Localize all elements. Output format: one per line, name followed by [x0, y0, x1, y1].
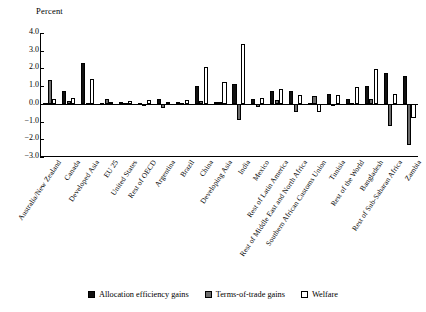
- bar-group: [251, 33, 264, 157]
- bar-group: [195, 33, 208, 157]
- legend-label: Welfare: [312, 290, 338, 299]
- x-tick-label-text: India: [236, 158, 252, 176]
- chart-legend: Allocation efficiency gainsTerms-of-trad…: [0, 290, 426, 299]
- x-tick-label-text: China: [197, 158, 215, 178]
- legend-swatch-icon: [205, 291, 212, 298]
- bar-2: [71, 98, 75, 104]
- legend-label: Terms-of-trade gains: [216, 290, 285, 299]
- x-tick-label-text: Brazil: [178, 158, 196, 179]
- y-axis-title: Percent: [36, 6, 63, 16]
- bar-group: [81, 33, 94, 157]
- bar-0: [289, 91, 293, 104]
- chart-figure: Percent 4.03.02.01.00.0−1.0−2.0−3.0 Aust…: [0, 0, 426, 312]
- bar-1: [294, 104, 298, 112]
- legend-item[interactable]: Welfare: [301, 290, 338, 299]
- x-tick-label-text: EU 25: [102, 158, 120, 179]
- bar-2: [393, 94, 397, 104]
- x-axis-labels: Australia/New ZealandCanadaDeveloped Asi…: [40, 157, 418, 267]
- bar-0: [232, 84, 236, 103]
- bar-2: [52, 99, 56, 104]
- bar-2: [222, 82, 226, 104]
- bar-2: [128, 101, 132, 104]
- legend-item[interactable]: Allocation efficiency gains: [88, 290, 189, 299]
- bar-2: [109, 102, 113, 104]
- bar-2: [147, 100, 151, 104]
- y-tick-label: 3.0: [29, 45, 39, 54]
- legend-label: Allocation efficiency gains: [99, 290, 189, 299]
- bar-2: [185, 100, 189, 104]
- y-tick-label: −2.0: [24, 133, 39, 142]
- bar-1: [237, 104, 241, 120]
- bar-1: [256, 104, 260, 107]
- bar-group: [119, 33, 132, 157]
- bar-2: [204, 67, 208, 104]
- y-tick-label: 4.0: [29, 27, 39, 36]
- bar-2: [411, 104, 415, 119]
- bar-group: [214, 33, 227, 157]
- y-tick-label: 2.0: [29, 62, 39, 71]
- bar-0: [81, 63, 85, 103]
- bar-2: [279, 89, 283, 104]
- x-tick-label-text: Zambia: [402, 158, 422, 182]
- bar-0: [327, 94, 331, 104]
- legend-item[interactable]: Terms-of-trade gains: [205, 290, 285, 299]
- bar-0: [384, 73, 388, 104]
- x-tick-label-text: Australia/New Zealand: [16, 158, 63, 222]
- bar-2: [166, 102, 170, 104]
- y-tick-label: −1.0: [24, 116, 39, 125]
- legend-swatch-icon: [88, 291, 95, 298]
- bar-0: [403, 76, 407, 104]
- bar-1: [161, 104, 165, 108]
- legend-swatch-icon: [301, 291, 308, 298]
- bar-2: [260, 98, 264, 104]
- bar-group: [43, 33, 56, 157]
- y-tick-label: −3.0: [24, 151, 39, 160]
- y-tick-label: 1.0: [29, 80, 39, 89]
- bar-2: [241, 44, 245, 104]
- y-tick-label: 0.0: [29, 98, 39, 107]
- bar-2: [298, 95, 302, 104]
